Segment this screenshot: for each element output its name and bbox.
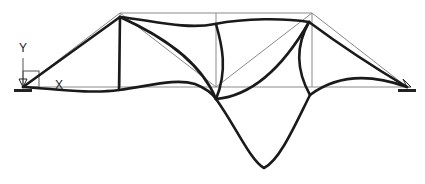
truss-diagram: Y X xyxy=(0,0,425,184)
deformed-shape xyxy=(23,17,407,168)
y-axis-label: Y xyxy=(19,41,27,55)
